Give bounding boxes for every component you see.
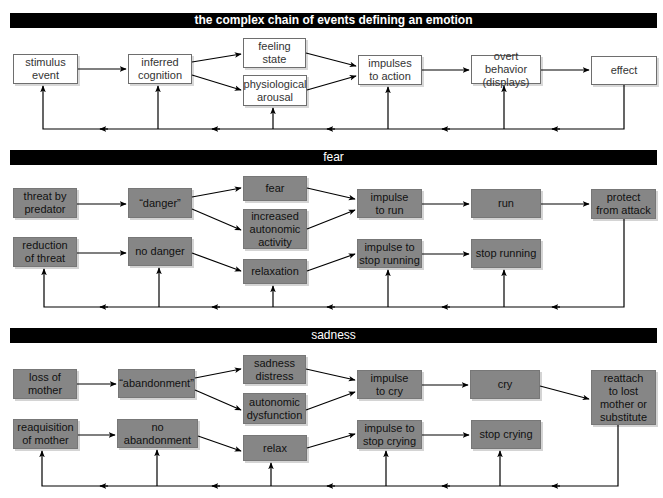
node-stop-running: stop running [471,239,541,268]
section-header-general: the complex chain of events defining an … [10,13,657,28]
node-effect: effect [591,56,657,85]
node-loss-of-mother: loss of mother [13,369,77,399]
node-impulse-to-stop-crying: impulse to stop crying [357,420,422,449]
node-autonomic-dysfunction: autonomic dysfunction [243,393,306,424]
node-reattach: reattach to lost mother or substitute [591,370,656,425]
node-stop-crying: stop crying [471,420,541,449]
node-increased-autonomic-activity: increased autonomic activity [243,209,307,249]
node-reaquisition-of-mother: reaquisition of mother [13,419,78,449]
node-no-danger: no danger [128,237,192,266]
section-header-sadness: sadness [10,328,657,343]
node-impulses-to-action: impulses to action [358,55,422,85]
node-reduction-of-threat: reduction of threat [13,237,77,267]
node-inferred-cognition: inferred cognition [128,54,192,84]
node-overt-behavior: overt behavior (displays) [471,55,541,84]
node-fear: fear [243,176,307,201]
node-no-abandonment: no abandonment [117,419,198,448]
section-header-fear: fear [10,150,657,165]
node-relax: relax [243,435,307,461]
node-physiological-arousal: physiological arousal [243,75,307,106]
node-feeling-state: feeling state [243,38,306,68]
node-danger: “danger” [128,188,192,218]
connector-arrows [0,0,663,498]
node-impulse-to-cry: impulse to cry [357,370,422,399]
node-protect-from-attack: protect from attack [591,189,656,219]
node-stimulus-event: stimulus event [13,54,78,84]
node-relaxation: relaxation [243,259,307,284]
node-cry: cry [470,370,540,399]
node-abandonment: “abandonment” [118,369,195,398]
node-impulse-to-run: impulse to run [357,189,422,218]
node-threat-by-predator: threat by predator [13,188,77,218]
node-impulse-to-stop-running: impulse to stop running [357,239,422,268]
node-run: run [471,189,541,218]
node-sadness-distress: sadness distress [243,355,306,384]
